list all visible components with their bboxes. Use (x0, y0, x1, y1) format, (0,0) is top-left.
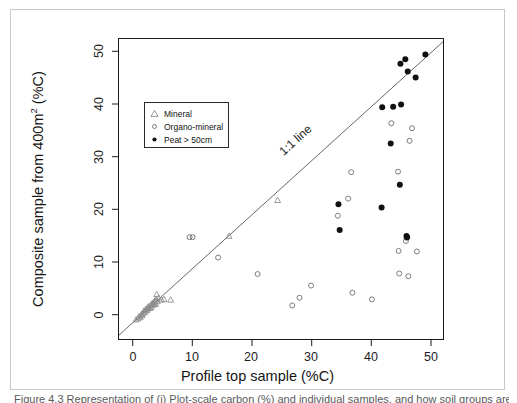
data-point (379, 104, 385, 110)
legend-item-mineral: Mineral (150, 107, 224, 120)
data-point (369, 297, 374, 302)
data-point (396, 169, 401, 174)
data-point (309, 283, 314, 288)
series-mineral-points (133, 197, 281, 322)
series-peat-points (335, 51, 428, 240)
figure-frame: Composite sample from 400m2 (%C) 50 40 3… (10, 9, 505, 390)
legend: Mineral Organo-mineral Peat > 50cm (144, 102, 229, 148)
legend-label-organo-mineral: Organo-mineral (164, 122, 223, 132)
figure-caption: Figure 4.3 Representation of (i) Plot-sc… (14, 394, 509, 403)
data-point (409, 126, 414, 131)
data-point (397, 182, 403, 188)
circle-filled-icon (150, 135, 159, 144)
data-point (290, 303, 295, 308)
data-point (404, 234, 410, 240)
data-point (337, 227, 343, 233)
data-point (379, 204, 385, 210)
data-point (190, 235, 195, 240)
data-point (335, 201, 341, 207)
data-point (414, 249, 419, 254)
data-point (397, 271, 402, 276)
data-point (396, 248, 401, 253)
data-point (350, 290, 355, 295)
data-point (168, 297, 174, 302)
reference-line (119, 39, 443, 339)
data-point (398, 102, 404, 108)
legend-label-peat: Peat > 50cm (164, 135, 212, 145)
data-point (402, 56, 408, 62)
data-point (255, 272, 260, 277)
data-point (397, 61, 403, 67)
data-point (422, 51, 428, 57)
scatter-plot (119, 39, 443, 339)
legend-label-mineral: Mineral (164, 109, 192, 119)
data-point (346, 196, 351, 201)
data-point (335, 213, 340, 218)
plot-panel (118, 38, 444, 340)
data-point (389, 121, 394, 126)
data-point (390, 104, 396, 110)
data-point (216, 255, 221, 260)
data-point (407, 138, 412, 143)
circle-open-icon (150, 122, 159, 131)
figure-page: Composite sample from 400m2 (%C) 50 40 3… (0, 0, 517, 403)
plot-data-area (119, 39, 443, 339)
legend-item-peat: Peat > 50cm (150, 133, 224, 146)
data-point (349, 170, 354, 175)
data-point (275, 197, 281, 202)
data-point (405, 68, 411, 74)
legend-item-organo-mineral: Organo-mineral (150, 120, 224, 133)
triangle-open-icon (150, 109, 159, 118)
data-point (413, 75, 419, 81)
series-organo-mineral-points (187, 121, 419, 308)
data-point (297, 295, 302, 300)
data-point (388, 141, 394, 147)
data-point (406, 274, 411, 279)
